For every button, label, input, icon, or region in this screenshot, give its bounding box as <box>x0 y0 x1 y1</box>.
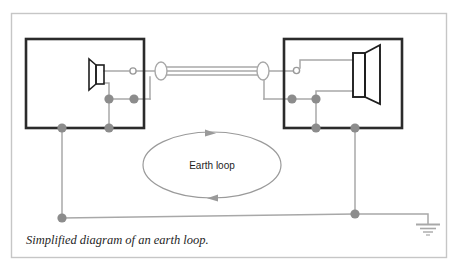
left-earth-rail-node <box>57 213 66 222</box>
left-equipment-box <box>26 39 144 128</box>
left-chassis-earth-node <box>57 123 66 132</box>
left-chassis-bottom-node <box>104 123 113 132</box>
earth-loop-arrow-bottom <box>207 195 218 202</box>
right-speaker-return-wire <box>316 91 353 99</box>
right-equipment-box <box>284 39 402 128</box>
left-signal-terminal <box>130 68 136 74</box>
right-chassis-bottom-node <box>311 123 320 132</box>
right-earth-rail-node <box>350 209 359 218</box>
cable-connector-right <box>257 62 269 80</box>
right-inner-ground-node <box>311 94 320 103</box>
earth-loop-label: Earth loop <box>189 160 235 171</box>
right-speaker-cone <box>365 45 380 104</box>
node-dots <box>57 94 359 222</box>
right-speaker <box>353 45 380 104</box>
earth-ground-symbol <box>416 225 440 236</box>
right-signal-terminal <box>293 67 299 73</box>
left-speaker-cone <box>89 59 96 90</box>
wiring-layer <box>62 60 428 224</box>
right-screen-ground-node <box>287 94 296 103</box>
figure-frame <box>12 14 447 258</box>
left-speaker-body <box>96 65 104 84</box>
left-speaker <box>89 59 104 90</box>
cable-connector-left <box>155 62 167 80</box>
left-screen-ground-node <box>129 94 138 103</box>
earth-loop-arrow-top <box>205 130 216 137</box>
earth-loop-indicator: Earth loop <box>143 130 281 202</box>
right-terminal-riser-wire <box>300 60 353 68</box>
right-speaker-body <box>353 53 365 97</box>
left-inner-ground-node <box>104 94 113 103</box>
earth-rail-wire <box>62 214 428 224</box>
figure-caption: Simplified diagram of an earth loop. <box>26 233 209 247</box>
right-chassis-earth-node <box>350 123 359 132</box>
figure-canvas: Earth loop Simplified diagram of an eart… <box>0 0 465 274</box>
